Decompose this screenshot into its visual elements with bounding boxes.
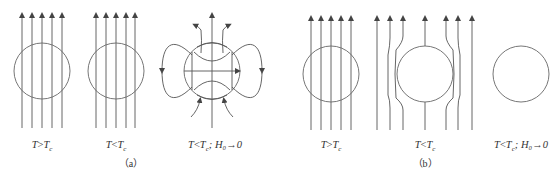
label-a1: T>Tc [32,139,53,153]
label-b1: T>Tc [321,139,342,153]
caption-b: （b） [413,155,438,170]
panel-a2-field-lines [96,15,135,128]
label-b3: T<Tc; H₀→0 [494,139,548,153]
panel-b2-sample-circle [397,46,453,102]
panel-b1-field-lines [311,18,351,130]
label-a2: T<Tc [106,139,127,153]
label-b2: T<Tc [415,139,436,153]
diagram-canvas [0,0,560,180]
panel-b2-field-lines [377,18,472,130]
panel-b3-sample-circle [493,46,549,102]
panel-a1-field-lines [22,15,62,128]
caption-a: （a） [119,155,143,170]
panel-a3-flux-lines [162,15,262,128]
label-a3: T<Tc; H₀→0 [188,139,242,153]
